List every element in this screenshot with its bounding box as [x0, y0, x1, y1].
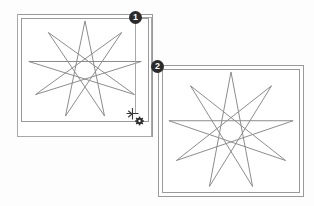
star-path: [29, 21, 141, 116]
drawing-canvas-1[interactable]: [21, 18, 149, 122]
star-polygon-2: [163, 70, 299, 192]
step-badge-2: 2: [151, 60, 164, 73]
star-path: [169, 72, 293, 187]
drawing-canvas-2[interactable]: [162, 69, 300, 193]
illustration-canvas: 1 2: [0, 0, 314, 206]
drawing-window-1[interactable]: [17, 14, 153, 137]
star-polygon-1: [22, 19, 148, 121]
step-badge-1: 1: [129, 11, 142, 24]
drawing-window-2[interactable]: [158, 65, 304, 197]
